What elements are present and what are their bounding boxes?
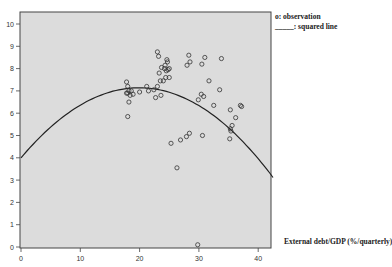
svg-text:3: 3 [10, 177, 14, 184]
legend-observation: o: observation [275, 12, 337, 22]
svg-text:20: 20 [136, 255, 144, 262]
legend: o: observation _____: squared line [275, 12, 337, 32]
svg-text:10: 10 [76, 255, 84, 262]
y-axis: 012345678910 [6, 21, 20, 251]
svg-text:4: 4 [10, 154, 14, 161]
x-axis-label: External debt/GDP (%/quarterly) [284, 237, 392, 246]
svg-text:7: 7 [10, 87, 14, 94]
x-axis: 010203040 [19, 248, 262, 262]
svg-text:2: 2 [10, 199, 14, 206]
svg-text:9: 9 [10, 43, 14, 50]
svg-text:8: 8 [10, 65, 14, 72]
svg-text:40: 40 [254, 255, 262, 262]
svg-text:30: 30 [195, 255, 203, 262]
svg-text:6: 6 [10, 110, 14, 117]
svg-text:10: 10 [6, 21, 14, 28]
svg-text:5: 5 [10, 132, 14, 139]
svg-text:0: 0 [19, 255, 23, 262]
legend-squared-line: _____: squared line [275, 22, 337, 32]
svg-text:0: 0 [10, 244, 14, 251]
plot-area [20, 12, 271, 248]
svg-text:1: 1 [10, 221, 14, 228]
